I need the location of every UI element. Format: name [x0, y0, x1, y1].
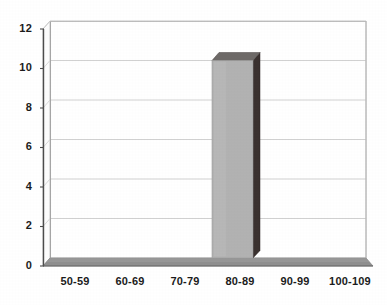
bar-80-89-sheen: [214, 62, 226, 257]
y-tick-label-12: 12: [6, 23, 32, 34]
bar-80-89-top: [212, 53, 260, 61]
y-tick-label-8: 8: [6, 102, 32, 113]
x-tick-label-70-79: 70-79: [154, 275, 216, 287]
x-tick-label-100-109: 100-109: [317, 275, 383, 287]
y-tick-label-0: 0: [6, 260, 32, 271]
y-tick-label-10: 10: [6, 62, 32, 73]
x-tick-label-60-69: 60-69: [99, 275, 161, 287]
chart-canvas: [0, 0, 387, 305]
y-tick-label-4: 4: [6, 181, 32, 192]
x-tick-label-80-89: 80-89: [209, 275, 271, 287]
plot-floor-shade: [47, 258, 370, 262]
bar-chart: 12 10 8 6 4 2 0 50-59 60-69 70-79 80-89 …: [0, 0, 387, 305]
x-tick-label-50-59: 50-59: [44, 275, 106, 287]
bar-80-89-side: [253, 53, 260, 259]
y-tick-label-2: 2: [6, 220, 32, 231]
y-tick-label-6: 6: [6, 141, 32, 152]
